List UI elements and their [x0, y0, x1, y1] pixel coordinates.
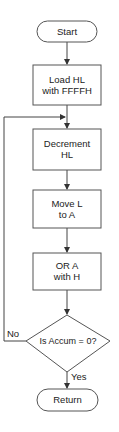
- yes-edge-label: Yes: [71, 371, 87, 382]
- move-l-label: Move L to A: [33, 198, 101, 220]
- or-a-label-line1: OR A: [33, 260, 101, 271]
- return-label: Return: [37, 394, 98, 405]
- no-edge-label: No: [7, 328, 19, 339]
- load-hl-label: Load HL with FFFFH: [33, 74, 101, 96]
- or-a-label-line2: with H: [33, 271, 101, 282]
- decrement-hl-label: Decrement HL: [33, 138, 101, 160]
- decision-label: Is Accum = 0?: [28, 336, 108, 347]
- start-label: Start: [37, 26, 97, 37]
- move-l-label-line1: Move L: [33, 198, 101, 209]
- move-l-label-line2: to A: [33, 209, 101, 220]
- load-hl-label-line2: with FFFFH: [33, 85, 101, 96]
- decrement-hl-label-line2: HL: [33, 149, 101, 160]
- or-a-label: OR A with H: [33, 260, 101, 282]
- decrement-hl-label-line1: Decrement: [33, 138, 101, 149]
- load-hl-label-line1: Load HL: [33, 74, 101, 85]
